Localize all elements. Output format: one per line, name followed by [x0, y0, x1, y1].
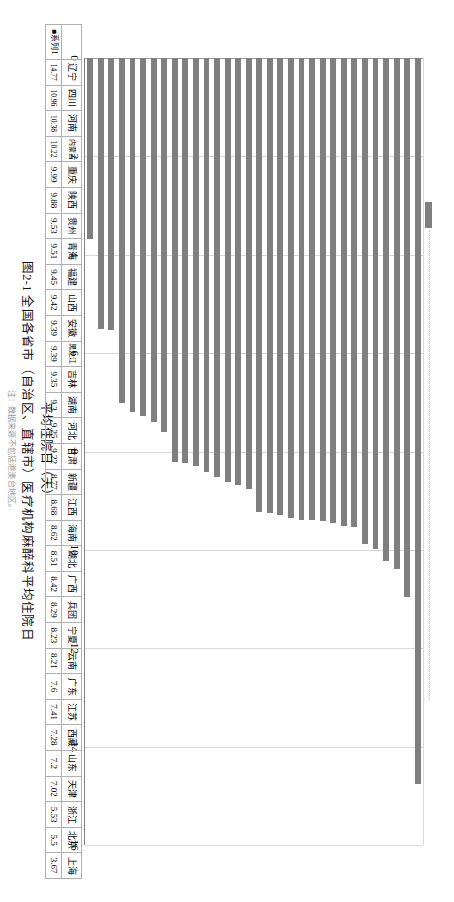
bar-福建 — [330, 58, 336, 523]
bar-西藏 — [140, 58, 146, 416]
bar-row — [138, 58, 149, 845]
bar-河南 — [394, 58, 400, 569]
table-cell-category-10: 安徽 — [62, 315, 82, 341]
table-cell-value-27: 7.2 — [46, 751, 62, 777]
table-corner-cell — [62, 25, 82, 60]
table-cell-value-10: 9.39 — [46, 315, 62, 341]
table-cell-value-2: 10.38 — [46, 111, 62, 137]
table-cell-category-24: 广东 — [62, 674, 82, 700]
bar-row — [96, 58, 107, 845]
bar-重庆 — [373, 58, 379, 549]
table-series-header: ■系列1 — [46, 25, 62, 60]
table-cell-value-25: 7.41 — [46, 699, 62, 725]
table-cell-category-29: 浙江 — [62, 802, 82, 828]
bar-江苏 — [151, 58, 157, 422]
bar-甘肃 — [256, 58, 262, 512]
bar-series-series1 — [85, 58, 423, 845]
bar-row — [243, 58, 254, 845]
table-cell-category-26: 西藏 — [62, 725, 82, 751]
table-cell-value-17: 8.68 — [46, 495, 62, 521]
table-cell-category-23: 云南 — [62, 648, 82, 674]
table-cell-category-30: 北京 — [62, 827, 82, 853]
bar-row — [170, 58, 181, 845]
bar-内蒙古 — [383, 58, 389, 561]
table-cell-value-21: 8.29 — [46, 597, 62, 623]
bar-row — [307, 58, 318, 845]
table-cell-value-4: 9.99 — [46, 162, 62, 188]
table-cell-value-22: 8.23 — [46, 623, 62, 649]
table-cell-value-24: 7.6 — [46, 674, 62, 700]
bar-青海 — [341, 58, 347, 526]
chart-legend — [422, 0, 436, 902]
table-cell-value-28: 7.02 — [46, 776, 62, 802]
table-cell-category-9: 山西 — [62, 290, 82, 316]
table-cell-category-13: 湖南 — [62, 392, 82, 418]
table-cell-value-8: 9.45 — [46, 264, 62, 290]
bar-贵州 — [351, 58, 357, 527]
bar-row — [254, 58, 265, 845]
table-cell-category-17: 江西 — [62, 495, 82, 521]
table-cell-category-21: 兵团 — [62, 597, 82, 623]
bar-上海 — [87, 58, 93, 239]
figure-caption: 图2-1 全国各省市（自治区、直辖市）医疗机构麻醉科平均住院日 — [19, 0, 38, 902]
table-cell-category-7: 青海 — [62, 239, 82, 265]
bar-山西 — [320, 58, 326, 521]
table-cell-value-14: 9.25 — [46, 418, 62, 444]
table-cell-category-25: 江苏 — [62, 699, 82, 725]
bar-row — [360, 58, 371, 845]
table-cell-value-26: 7.28 — [46, 725, 62, 751]
table-cell-category-11: 黑龙江 — [62, 341, 82, 367]
bar-row — [370, 58, 381, 845]
bar-四川 — [404, 58, 410, 597]
table-cell-value-3: 10.22 — [46, 136, 62, 162]
legend-swatch-series1 — [426, 202, 433, 228]
table-cell-category-3: 内蒙古 — [62, 136, 82, 162]
bar-安徽 — [309, 58, 315, 520]
table-cell-category-15: 甘肃 — [62, 443, 82, 469]
table-cell-value-6: 9.53 — [46, 213, 62, 239]
figure: 0246810121416 平均住院日（天） 辽宁四川河南内蒙古重庆陕西贵州青海… — [0, 0, 454, 902]
bar-浙江 — [108, 58, 114, 330]
table-cell-value-15: 9.22 — [46, 443, 62, 469]
bar-湖北 — [214, 58, 220, 477]
bar-row — [317, 58, 328, 845]
gridline-16 — [85, 845, 423, 846]
bar-广东 — [161, 58, 167, 432]
bar-row — [381, 58, 392, 845]
table-row-categories: 辽宁四川河南内蒙古重庆陕西贵州青海福建山西安徽黑龙江吉林湖南河北甘肃新疆江西海南… — [62, 25, 82, 879]
table-cell-value-29: 5.53 — [46, 802, 62, 828]
table-cell-category-1: 四川 — [62, 85, 82, 111]
bar-row — [402, 58, 413, 845]
bar-新疆 — [246, 58, 252, 489]
table-cell-value-16: 8.77 — [46, 469, 62, 495]
bar-row — [412, 58, 423, 845]
bar-row — [265, 58, 276, 845]
rotated-figure-container: 0246810121416 平均住院日（天） 辽宁四川河南内蒙古重庆陕西贵州青海… — [0, 0, 454, 902]
bar-row — [222, 58, 233, 845]
legend-divider — [428, 230, 430, 700]
bar-row — [275, 58, 286, 845]
bar-row — [328, 58, 339, 845]
table-cell-category-5: 陕西 — [62, 187, 82, 213]
table-cell-category-19: 湖北 — [62, 546, 82, 572]
table-cell-value-12: 9.35 — [46, 367, 62, 393]
table-cell-category-20: 广西 — [62, 571, 82, 597]
table-cell-value-7: 9.51 — [46, 239, 62, 265]
table-cell-category-6: 贵州 — [62, 213, 82, 239]
bar-row — [212, 58, 223, 845]
bar-row — [180, 58, 191, 845]
bar-海南 — [225, 58, 231, 482]
bar-山东 — [130, 58, 136, 412]
table-cell-category-18: 海南 — [62, 520, 82, 546]
table-cell-category-0: 辽宁 — [62, 60, 82, 86]
bar-兵团 — [193, 58, 199, 466]
bar-row — [296, 58, 307, 845]
bar-河北 — [267, 58, 273, 513]
bar-row — [106, 58, 117, 845]
table-cell-value-20: 8.42 — [46, 571, 62, 597]
bar-row — [391, 58, 402, 845]
plot-area — [84, 58, 424, 845]
table-row-values: ■系列114.7710.9610.3810.229.999.889.539.51… — [46, 25, 62, 879]
table-cell-value-1: 10.96 — [46, 85, 62, 111]
bar-row — [339, 58, 350, 845]
